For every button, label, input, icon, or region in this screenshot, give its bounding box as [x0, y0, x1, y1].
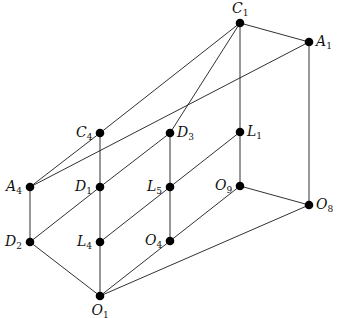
node-label-index: 4: [86, 241, 92, 251]
node-label-c4: C4: [76, 125, 92, 142]
edges-group: [30, 23, 309, 296]
node-label-letter: A: [6, 178, 16, 194]
node-label-index: 4: [87, 132, 93, 142]
node-label-l5: L5: [147, 179, 162, 196]
edge-a1-a4: [30, 42, 309, 187]
edge-c1-d3: [170, 23, 240, 133]
node-label-index: 9: [226, 185, 232, 195]
node-label-letter: A: [316, 33, 326, 49]
node-label-index: 1: [243, 8, 249, 18]
node-a4: [26, 183, 35, 192]
node-label-l4: L4: [77, 234, 92, 251]
node-label-o8: O8: [316, 197, 333, 214]
node-d2: [26, 238, 35, 247]
node-label-o1: O1: [92, 303, 109, 318]
node-label-index: 3: [188, 132, 194, 142]
node-label-letter: D: [75, 178, 86, 194]
node-label-o9: O9: [215, 178, 232, 195]
node-l4: [96, 238, 105, 247]
node-label-l1: L1: [247, 124, 262, 141]
node-o8: [305, 201, 314, 210]
node-d1: [96, 183, 105, 192]
node-label-index: 2: [16, 241, 22, 251]
nodes-group: [26, 19, 314, 301]
lattice-diagram: [0, 0, 339, 318]
node-label-letter: L: [77, 233, 86, 249]
node-label-index: 1: [326, 41, 332, 51]
edge-c1-a1: [240, 23, 309, 42]
edge-o9-o8: [240, 186, 309, 205]
node-label-index: 4: [156, 240, 162, 250]
node-c4: [96, 129, 105, 138]
node-label-d1: D1: [75, 179, 92, 196]
node-label-letter: O: [215, 177, 226, 193]
node-a1: [305, 38, 314, 47]
node-label-c1: C1: [232, 1, 248, 18]
node-label-o4: O4: [145, 233, 162, 250]
node-label-index: 5: [156, 186, 162, 196]
node-label-index: 1: [86, 186, 92, 196]
node-label-letter: O: [92, 302, 103, 318]
node-d3: [166, 129, 175, 138]
node-label-letter: L: [247, 123, 256, 139]
node-label-d2: D2: [5, 234, 22, 251]
node-o1: [96, 292, 105, 301]
node-label-letter: L: [147, 178, 156, 194]
node-label-index: 1: [256, 131, 262, 141]
node-label-a1: A1: [316, 34, 332, 51]
node-o4: [166, 237, 175, 246]
node-label-a4: A4: [6, 179, 22, 196]
node-label-index: 1: [103, 310, 109, 318]
node-label-d3: D3: [177, 125, 194, 142]
node-label-index: 8: [327, 204, 333, 214]
edge-o8-o1: [100, 205, 309, 296]
node-label-letter: D: [177, 124, 188, 140]
node-c1: [236, 19, 245, 28]
node-label-index: 4: [16, 186, 22, 196]
node-o9: [236, 182, 245, 191]
edge-c1-c4: [100, 23, 240, 133]
node-l5: [166, 183, 175, 192]
node-label-letter: O: [316, 196, 327, 212]
node-label-letter: D: [5, 233, 16, 249]
node-label-letter: O: [145, 232, 156, 248]
node-l1: [236, 128, 245, 137]
node-label-letter: C: [232, 0, 243, 16]
node-label-letter: C: [76, 124, 87, 140]
